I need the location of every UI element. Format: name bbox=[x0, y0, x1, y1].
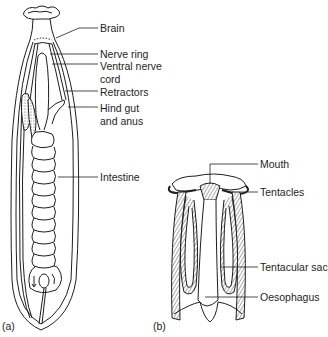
panel-a-drawing bbox=[11, 6, 79, 330]
label-nerve-ring: Nerve ring bbox=[100, 48, 148, 60]
label-hind-gut-line1: Hind gut bbox=[100, 102, 139, 114]
label-ventral-nerve-cord-line2: cord bbox=[100, 73, 120, 85]
panel-tag-b: (b) bbox=[153, 320, 166, 332]
panel-b-drawing bbox=[169, 174, 248, 322]
label-ventral-nerve-cord-line1: Ventral nerve bbox=[100, 60, 162, 72]
label-mouth: Mouth bbox=[260, 158, 289, 170]
label-tentacular-sac: Tentacular sac bbox=[260, 261, 328, 273]
label-brain: Brain bbox=[100, 22, 125, 34]
label-hind-gut-line2: and anus bbox=[100, 115, 143, 127]
panel-tag-a: (a) bbox=[2, 320, 15, 332]
intestine-coils bbox=[29, 131, 62, 324]
label-tentacles: Tentacles bbox=[260, 186, 304, 198]
label-retractors: Retractors bbox=[100, 86, 148, 98]
label-intestine: Intestine bbox=[100, 171, 140, 183]
label-oesophagus: Oesophagus bbox=[260, 291, 320, 303]
